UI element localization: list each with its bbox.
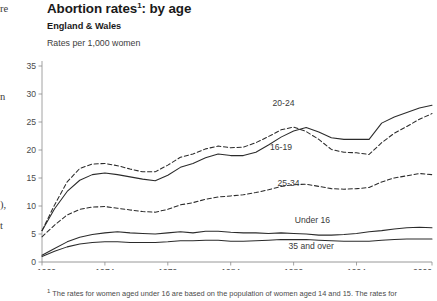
bleed-text-fragment: re [0,4,14,15]
x-axis-tick-label: 1989 [284,267,303,270]
y-axis-tick-label: 5 [31,229,36,239]
chart-units-label: Rates per 1,000 women [47,38,140,48]
series-label-20-24: 20-24 [273,98,295,108]
page-title-suffix: : by age [141,1,191,16]
x-axis-tick-label: 1969 [37,267,56,270]
x-axis-tick-label: 1974 [95,267,114,270]
footnote: 1 The rates for women aged under 16 are … [47,289,437,301]
series-label-25-34: 25-34 [278,178,300,188]
series-label-16-19: 16-19 [270,142,292,152]
x-axis-tick-label: 1994 [347,267,366,270]
y-axis-tick-label: 35 [26,61,36,71]
x-axis-tick-label: 1979 [158,267,177,270]
footnote-text: The rates for women aged under 16 are ba… [52,289,397,298]
page-title-text: Abortion rates [47,1,137,16]
series-line-16-19 [42,114,432,231]
y-axis-tick-label: 25 [26,117,36,127]
y-axis-tick-label: 0 [31,257,36,267]
series-label-under-16: Under 16 [295,215,331,225]
x-axis-tick-label: 1984 [221,267,240,270]
chart-svg: 0510152025303519691974197919841989199420… [0,55,437,270]
y-axis-tick-label: 10 [26,201,36,211]
series-line-20-24 [42,105,432,230]
footnote-marker: 1 [47,289,50,294]
y-axis-tick-label: 30 [26,89,36,99]
line-chart: 0510152025303519691974197919841989199420… [0,55,437,270]
series-line-25-34 [42,174,432,237]
page-title: Abortion rates1: by age [47,1,191,16]
y-axis-tick-label: 15 [26,173,36,183]
y-axis-tick-label: 20 [26,145,36,155]
x-axis-tick-label: 2000 [413,267,432,270]
chart-subtitle: England & Wales [47,21,121,31]
series-label-35-and-over: 35 and over [289,241,335,251]
series-line-35-and-over [42,239,432,256]
figure-page: re n ), t Abortion rates1: by age Englan… [0,0,437,301]
